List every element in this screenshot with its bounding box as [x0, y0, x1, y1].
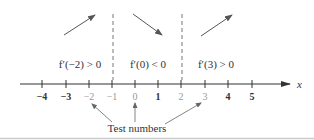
tick-label: −1 — [107, 91, 118, 102]
tick-label: 5 — [250, 91, 255, 102]
arrow-up-right-icon — [201, 15, 232, 36]
tick-label: −4 — [37, 91, 48, 102]
pointer-to-3 — [165, 103, 201, 124]
pointer-to-neg2 — [92, 104, 112, 122]
tick-label: 1 — [156, 91, 161, 102]
arrow-up-right-icon — [64, 15, 95, 35]
tick-label: 4 — [226, 91, 231, 102]
sign-chart-diagram: f′(−2) > 0 f′(0) < 0 f′(3) > 0 x −4 −3 −… — [0, 0, 314, 140]
tick-label: 3 — [203, 91, 208, 102]
tick-label: 2 — [179, 91, 184, 102]
interval-condition-2: f′(0) < 0 — [130, 58, 167, 71]
tick-label: 0 — [133, 91, 138, 102]
interval-condition-3: f′(3) > 0 — [198, 58, 235, 71]
tick-label: −3 — [61, 91, 72, 102]
arrow-down-right-icon — [133, 14, 162, 35]
tick-label: −2 — [84, 91, 95, 102]
test-numbers-label: Test numbers — [108, 122, 167, 134]
x-axis-label: x — [296, 78, 302, 90]
interval-condition-1: f′(−2) > 0 — [59, 58, 102, 71]
